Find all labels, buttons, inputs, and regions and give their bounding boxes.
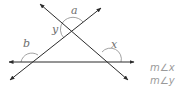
angle-label-a: a bbox=[71, 4, 78, 17]
measure-x-label: m∠x bbox=[150, 62, 175, 74]
measure-y-label: m∠y bbox=[150, 75, 175, 87]
angle-label-x: x bbox=[111, 38, 118, 51]
angle-label-y: y bbox=[51, 23, 59, 36]
angle-b-arc bbox=[21, 53, 38, 62]
angle-label-b: b bbox=[23, 37, 30, 50]
angle-a-arc bbox=[63, 17, 83, 22]
